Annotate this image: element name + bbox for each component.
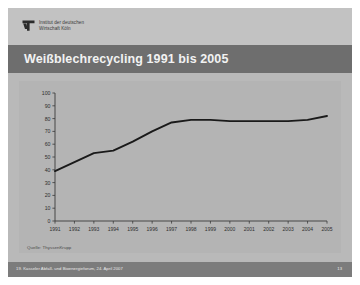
chart-panel: 0102030405060708090100199119921993199419… [19,81,341,253]
x-axis-tick-label: 2005 [321,226,332,232]
y-axis-tick-label: 20 [45,192,51,198]
y-axis-tick-label: 10 [45,205,51,211]
x-axis-tick-label: 2001 [244,226,255,232]
y-axis-tick-label: 100 [42,90,51,96]
y-axis-tick-label: 0 [48,218,51,224]
y-axis-tick-label: 50 [45,154,51,160]
y-axis-tick-label: 60 [45,141,51,147]
x-axis-tick-label: 1994 [108,226,119,232]
y-axis-tick-label: 90 [45,103,51,109]
x-axis-tick-label: 2004 [302,226,313,232]
x-axis-tick-label: 1999 [205,226,216,232]
y-axis-tick-label: 70 [45,128,51,134]
institute-logo-text: Institut der deutschen Wirtschaft Köln [39,20,84,31]
x-axis-tick-label: 1991 [49,226,60,232]
y-axis-tick-label: 40 [45,167,51,173]
slide-title-bar: Weißblechrecycling 1991 bis 2005 [8,45,352,73]
line-chart: 0102030405060708090100199119921993199419… [19,81,341,253]
chart-source-note: Quelle: ThyssenKrupp [27,245,71,250]
y-axis-tick-label: 30 [45,180,51,186]
slide-title: Weißblechrecycling 1991 bis 2005 [24,52,228,66]
iw-koeln-logo-icon [22,19,35,32]
institute-logo-line1: Institut der deutschen [39,20,84,25]
data-series-line [55,116,327,171]
x-axis-tick-label: 1993 [88,226,99,232]
x-axis-tick-label: 1995 [127,226,138,232]
x-axis-tick-label: 1996 [147,226,158,232]
x-axis-tick-label: 2002 [263,226,274,232]
x-axis-tick-label: 1998 [185,226,196,232]
x-axis-tick-label: 2003 [283,226,294,232]
x-axis-tick-label: 1992 [69,226,80,232]
x-axis-tick-label: 2000 [224,226,235,232]
presentation-slide: Institut der deutschen Wirtschaft Köln W… [8,8,352,277]
footer-page-number: 13 [337,266,342,271]
x-axis-tick-label: 1997 [166,226,177,232]
slide-header-band: Institut der deutschen Wirtschaft Köln [8,8,352,45]
institute-logo-line2: Wirtschaft Köln [39,26,84,32]
institute-logo: Institut der deutschen Wirtschaft Köln [22,19,84,32]
y-axis-tick-label: 80 [45,116,51,122]
chart-canvas: 0102030405060708090100199119921993199419… [19,81,341,253]
slide-footer-bar: 19. Kasseler Abfall- und Bioenergieforum… [8,262,352,277]
footer-event-label: 19. Kasseler Abfall- und Bioenergieforum… [16,266,123,271]
